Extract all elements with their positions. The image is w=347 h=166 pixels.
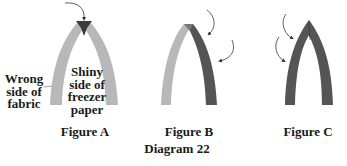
arch-left-light	[161, 24, 193, 105]
label-line: fabric	[7, 98, 40, 111]
curved-arrow-icon	[283, 14, 292, 38]
shiny-side-of-freezer-paper-label: Shiny side of freezer paper	[64, 66, 110, 116]
wrong-side-of-fabric-label: Wrong side of fabric	[2, 73, 46, 111]
figure-c-arch	[276, 14, 333, 105]
arch-left-dark	[285, 20, 311, 105]
diagram-title: Diagram 22	[142, 142, 212, 155]
curved-arrow-icon	[65, 3, 84, 19]
figure-b-caption: Figure B	[164, 125, 214, 138]
label-line: paper	[71, 104, 104, 117]
figure-c-caption: Figure C	[283, 125, 333, 138]
figure-a-caption: Figure A	[60, 125, 110, 138]
figure-b-arch	[161, 10, 234, 105]
curved-arrow-icon	[207, 10, 214, 34]
curved-arrow-icon	[220, 40, 234, 61]
curved-arrow-icon	[276, 37, 284, 61]
arch-right-dark	[186, 24, 217, 105]
arch-right-dark	[308, 20, 333, 105]
